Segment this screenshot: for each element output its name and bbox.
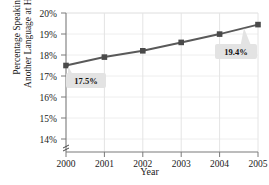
y-tick-label-17: 17% (40, 72, 58, 82)
y-tick-label-20: 20% (40, 9, 58, 19)
x-tick-marks (66, 152, 258, 157)
y-tick-label-15: 15% (40, 114, 58, 124)
y-tick-label-18: 18% (40, 51, 58, 61)
data-point-2004 (217, 31, 223, 37)
data-point-2003 (178, 40, 184, 46)
y-tick-label-19: 19% (40, 30, 58, 40)
y-tick-label-14: 14% (40, 135, 58, 145)
chart-canvas: 20% 19% 18% 17% 16% 15% 14% 2000 2001 20… (0, 0, 269, 185)
data-point-2000 (63, 63, 69, 69)
x-axis-title-wrap: Year (0, 166, 269, 177)
data-point-2001 (102, 54, 108, 60)
data-point-2002 (140, 48, 146, 54)
y-tick-marks (61, 13, 66, 139)
y-tick-label-16: 16% (40, 93, 58, 103)
annotation-label-first: 17.5% (74, 76, 97, 86)
annotation-label-last: 19.4% (224, 47, 247, 57)
data-point-2005 (255, 22, 261, 28)
x-axis-title: Year (110, 166, 158, 177)
line-chart: Percentage Speaking Another Language at … (0, 0, 269, 185)
